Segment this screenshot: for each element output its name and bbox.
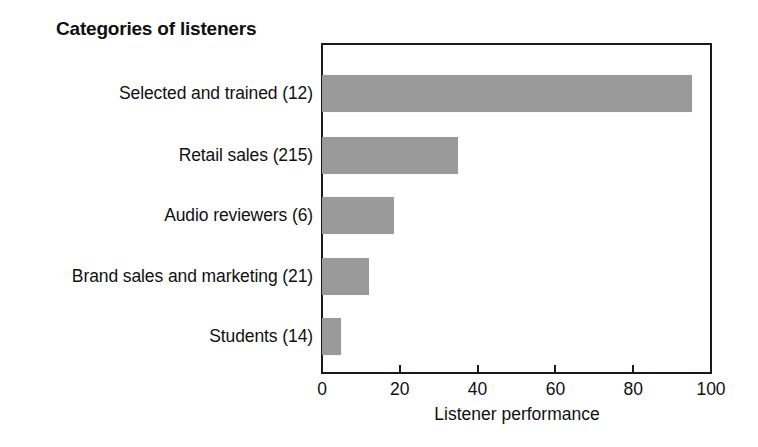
x-tick-label-0: 0 <box>317 379 327 400</box>
bar-fill <box>322 258 369 295</box>
x-tick-mark-40 <box>477 365 479 374</box>
x-tick-label-20: 20 <box>390 379 409 400</box>
bar-fill <box>322 75 692 112</box>
x-tick-label-60: 60 <box>546 379 565 400</box>
category-axis-labels: Selected and trained (12)Retail sales (2… <box>0 44 313 373</box>
bar-series <box>322 44 711 373</box>
bar-5 <box>322 318 341 355</box>
bar-fill <box>322 318 341 355</box>
bar-fill <box>322 137 458 174</box>
x-tick-label-100: 100 <box>696 379 725 400</box>
bar-1 <box>322 75 692 112</box>
bar-3 <box>322 197 394 234</box>
x-tick-mark-20 <box>399 365 401 374</box>
category-label-4: Brand sales and marketing (21) <box>0 266 313 287</box>
bar-fill <box>322 197 394 234</box>
x-tick-label-40: 40 <box>468 379 487 400</box>
category-label-5: Students (14) <box>0 326 313 347</box>
bar-2 <box>322 137 458 174</box>
category-label-3: Audio reviewers (6) <box>0 205 313 226</box>
bar-4 <box>322 258 369 295</box>
chart-page: Categories of listeners Selected and tra… <box>0 0 758 447</box>
category-label-2: Retail sales (215) <box>0 145 313 166</box>
x-axis-title: Listener performance <box>322 404 712 425</box>
x-tick-mark-60 <box>554 365 556 374</box>
chart-title: Categories of listeners <box>56 18 256 40</box>
x-tick-mark-80 <box>632 365 634 374</box>
x-tick-label-80: 80 <box>623 379 642 400</box>
category-label-1: Selected and trained (12) <box>0 83 313 104</box>
